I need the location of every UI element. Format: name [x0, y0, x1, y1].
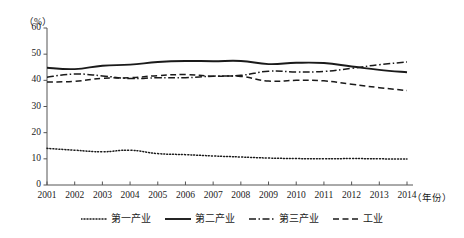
line-chart: （%） （年份） 6050403020100 20012002200320042…	[0, 0, 464, 238]
series-line-2	[47, 61, 407, 72]
legend-item-1[interactable]: 第一产业	[81, 214, 151, 224]
series-line-1	[47, 148, 407, 159]
legend-item-4[interactable]: 工业	[333, 214, 383, 224]
plot-area	[0, 0, 464, 238]
legend-label: 第三产业	[279, 214, 319, 224]
legend-swatch-dotted-icon	[81, 214, 107, 224]
legend-item-2[interactable]: 第二产业	[165, 214, 235, 224]
legend-label: 第二产业	[195, 214, 235, 224]
legend-item-3[interactable]: 第三产业	[249, 214, 319, 224]
legend-swatch-solid-icon	[165, 214, 191, 224]
series-line-3	[47, 62, 407, 79]
legend-swatch-dashdot-icon	[249, 214, 275, 224]
data-series-group	[47, 61, 407, 159]
chart-legend: 第一产业第二产业第三产业工业	[0, 214, 464, 224]
series-line-4	[47, 75, 407, 91]
legend-label: 第一产业	[111, 214, 151, 224]
axis-lines	[44, 28, 414, 185]
legend-label: 工业	[363, 214, 383, 224]
legend-swatch-dashed-icon	[333, 214, 359, 224]
